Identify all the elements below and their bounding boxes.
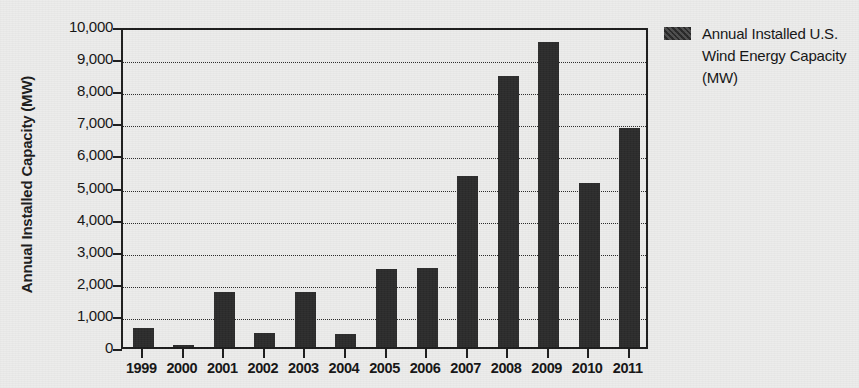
y-axis-tick <box>113 221 122 223</box>
x-axis-tick-label-2003: 2003 <box>280 360 326 376</box>
y-axis-tick-label: 9,000 <box>35 50 113 67</box>
plot-inner <box>123 30 646 347</box>
x-axis-tick <box>547 349 549 358</box>
bar-2003 <box>295 292 316 347</box>
chart-page: Annual Installed Capacity (MW) 01,0002,0… <box>0 0 859 388</box>
x-axis-tick <box>425 349 427 358</box>
y-axis-tick <box>113 317 122 319</box>
y-axis-tick-label: 2,000 <box>35 275 113 292</box>
gridline <box>123 158 646 159</box>
x-axis-tick <box>263 349 265 358</box>
y-axis-tick <box>113 92 122 94</box>
gridline <box>123 255 646 256</box>
gridline <box>123 191 646 192</box>
y-axis-tick-label: 10,000 <box>35 18 113 35</box>
x-axis-tick-label-2001: 2001 <box>199 360 245 376</box>
y-axis-tick <box>113 60 122 62</box>
legend-label: Annual Installed U.S. Wind Energy Capaci… <box>702 23 852 89</box>
x-axis-tick <box>628 349 630 358</box>
x-axis-tick-label-2009: 2009 <box>524 360 570 376</box>
x-axis-tick <box>506 349 508 358</box>
y-axis-tick-label: 4,000 <box>35 211 113 228</box>
bar-2009 <box>538 42 559 347</box>
y-axis-tick-label: 3,000 <box>35 243 113 260</box>
gridline <box>123 62 646 63</box>
y-axis-tick-label: 0 <box>35 339 113 356</box>
x-axis-tick-label-2004: 2004 <box>321 360 367 376</box>
x-axis-tick <box>182 349 184 358</box>
bar-2006 <box>417 268 438 347</box>
x-axis-tick-label-1999: 1999 <box>118 360 164 376</box>
chart-legend: Annual Installed U.S. Wind Energy Capaci… <box>664 23 854 89</box>
bar-2007 <box>457 176 478 347</box>
x-axis-tick-label-2008: 2008 <box>483 360 529 376</box>
x-axis-tick <box>587 349 589 358</box>
x-axis-tick <box>385 349 387 358</box>
x-axis-tick-label-2006: 2006 <box>402 360 448 376</box>
x-axis-tick-label-2002: 2002 <box>240 360 286 376</box>
gridline <box>123 223 646 224</box>
y-axis-tick <box>113 156 122 158</box>
y-axis-tick <box>113 349 122 351</box>
bar-2000 <box>173 345 194 347</box>
bar-1999 <box>133 328 154 347</box>
y-axis-tick <box>113 285 122 287</box>
y-axis-tick-label: 7,000 <box>35 114 113 131</box>
bar-2002 <box>254 333 275 347</box>
bar-2008 <box>498 76 519 347</box>
bar-2011 <box>619 128 640 347</box>
x-axis-tick-label-2005: 2005 <box>362 360 408 376</box>
gridline <box>123 126 646 127</box>
x-axis-tick-label-2007: 2007 <box>443 360 489 376</box>
y-axis-tick-label: 6,000 <box>35 146 113 163</box>
y-axis-tick-label: 1,000 <box>35 307 113 324</box>
bar-2005 <box>376 269 397 347</box>
bar-2010 <box>579 183 600 347</box>
x-axis-tick <box>303 349 305 358</box>
y-axis-labels: 01,0002,0003,0004,0005,0006,0007,0008,00… <box>28 0 113 388</box>
x-axis-tick-label-2011: 2011 <box>605 360 651 376</box>
y-axis-tick-label: 5,000 <box>35 179 113 196</box>
plot-area <box>121 28 648 349</box>
legend-swatch-icon <box>664 27 691 40</box>
bar-2004 <box>335 334 356 347</box>
x-axis-tick <box>222 349 224 358</box>
x-axis-tick <box>344 349 346 358</box>
x-axis-tick-label-2010: 2010 <box>564 360 610 376</box>
y-axis-tick <box>113 253 122 255</box>
y-axis-tick <box>113 28 122 30</box>
x-axis-tick-label-2000: 2000 <box>159 360 205 376</box>
bar-2001 <box>214 292 235 347</box>
y-axis-tick-label: 8,000 <box>35 82 113 99</box>
y-axis-tick <box>113 189 122 191</box>
gridline <box>123 94 646 95</box>
y-axis-tick <box>113 124 122 126</box>
x-axis-tick <box>141 349 143 358</box>
x-axis-tick <box>466 349 468 358</box>
